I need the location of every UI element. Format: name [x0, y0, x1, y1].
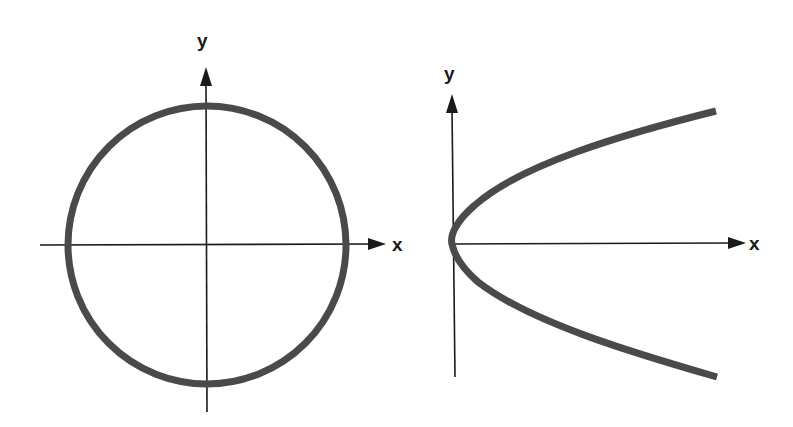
parabola-y-axis-arrow-icon	[446, 94, 458, 113]
parabola-x-axis	[453, 243, 732, 244]
figure-canvas: x y x y	[0, 0, 793, 427]
parabola-panel: x y	[444, 63, 760, 377]
circle-y-axis-label: y	[197, 30, 208, 51]
parabola-y-axis-label: y	[444, 63, 455, 84]
parabola-x-axis-arrow-icon	[728, 237, 746, 249]
circle-y-axis	[206, 82, 207, 412]
circle-x-axis-arrow-icon	[368, 238, 386, 250]
circle-panel: x y	[40, 30, 403, 412]
circle-y-axis-arrow-icon	[200, 67, 212, 86]
parabola-x-axis-label: x	[749, 233, 760, 254]
circle-x-axis-label: x	[392, 234, 403, 255]
